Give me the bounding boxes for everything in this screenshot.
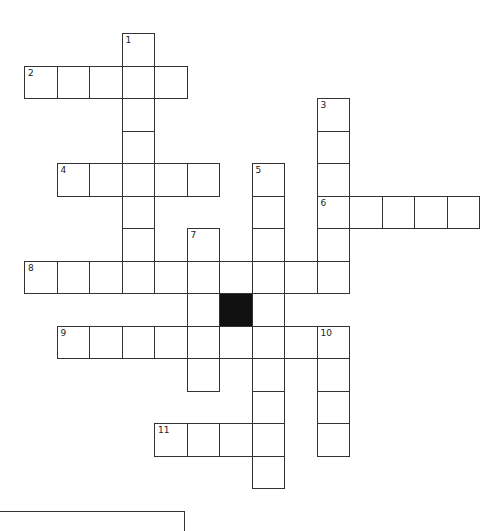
clue-number: 4 <box>61 165 67 175</box>
crossword-cell[interactable] <box>187 163 221 197</box>
clue-number: 5 <box>256 165 262 175</box>
crossword-cell[interactable]: 6 <box>317 196 351 230</box>
crossword-cell[interactable]: 7 <box>187 228 221 262</box>
crossword-cell[interactable] <box>382 196 416 230</box>
crossword-cell[interactable]: 5 <box>252 163 286 197</box>
crossword-cell[interactable] <box>284 326 318 360</box>
crossword-cell[interactable]: 11 <box>154 423 188 457</box>
crossword-cell[interactable]: 4 <box>57 163 91 197</box>
crossword-cell[interactable] <box>89 261 123 295</box>
crossword-cell[interactable] <box>447 196 481 230</box>
crossword-cell[interactable] <box>317 423 351 457</box>
crossword-cell[interactable] <box>122 131 156 165</box>
crossword-cell[interactable] <box>252 228 286 262</box>
crossword-cell[interactable]: 1 <box>122 33 156 67</box>
crossword-cell[interactable]: 10 <box>317 326 351 360</box>
crossword-cell[interactable] <box>89 326 123 360</box>
crossword-cell[interactable] <box>122 98 156 132</box>
crossword-cell[interactable] <box>57 66 91 100</box>
black-square <box>219 293 253 327</box>
clue-number: 9 <box>61 328 67 338</box>
crossword-cell[interactable] <box>187 326 221 360</box>
crossword-cell[interactable] <box>187 358 221 392</box>
crossword-cell[interactable] <box>252 423 286 457</box>
crossword-cell[interactable] <box>317 163 351 197</box>
crossword-cell[interactable] <box>122 228 156 262</box>
crossword-cell[interactable] <box>317 391 351 425</box>
crossword-cell[interactable] <box>317 261 351 295</box>
crossword-cell[interactable]: 9 <box>57 326 91 360</box>
crossword-cell[interactable] <box>252 391 286 425</box>
crossword-cell[interactable] <box>252 326 286 360</box>
crossword-cell[interactable] <box>57 261 91 295</box>
crossword-cell[interactable] <box>122 326 156 360</box>
crossword-cell[interactable] <box>219 326 253 360</box>
crossword-cell[interactable] <box>317 131 351 165</box>
clue-number: 10 <box>321 328 332 338</box>
crossword-cell[interactable] <box>317 228 351 262</box>
crossword-cell[interactable] <box>252 261 286 295</box>
clue-number: 1 <box>126 35 132 45</box>
crossword-cell[interactable]: 3 <box>317 98 351 132</box>
crossword-cell[interactable] <box>154 326 188 360</box>
clue-number: 6 <box>321 198 327 208</box>
crossword-cell[interactable] <box>154 66 188 100</box>
crossword-cell[interactable] <box>284 261 318 295</box>
crossword-cell[interactable] <box>187 261 221 295</box>
clue-number: 11 <box>158 425 169 435</box>
crossword-cell[interactable] <box>317 358 351 392</box>
clue-number: 2 <box>28 68 34 78</box>
crossword-cell[interactable] <box>252 196 286 230</box>
crossword-cell[interactable]: 2 <box>24 66 58 100</box>
crossword-cell[interactable] <box>89 163 123 197</box>
crossword-cell[interactable] <box>252 293 286 327</box>
crossword-cell[interactable] <box>219 261 253 295</box>
crossword-cell[interactable] <box>89 66 123 100</box>
crossword-cell[interactable] <box>349 196 383 230</box>
crossword-cell[interactable] <box>187 293 221 327</box>
crossword-cell[interactable] <box>252 358 286 392</box>
crossword-cell[interactable] <box>154 261 188 295</box>
crossword-cell[interactable] <box>187 423 221 457</box>
clues-panel <box>0 511 185 531</box>
crossword-cell[interactable] <box>122 196 156 230</box>
clue-number: 8 <box>28 263 34 273</box>
crossword-cell[interactable] <box>122 66 156 100</box>
clue-number: 7 <box>191 230 197 240</box>
crossword-cell[interactable] <box>122 261 156 295</box>
clue-number: 3 <box>321 100 327 110</box>
crossword-cell[interactable]: 8 <box>24 261 58 295</box>
crossword-cell[interactable] <box>122 163 156 197</box>
crossword-cell[interactable] <box>252 456 286 490</box>
crossword-cell[interactable] <box>414 196 448 230</box>
crossword-cell[interactable] <box>154 163 188 197</box>
crossword-cell[interactable] <box>219 423 253 457</box>
